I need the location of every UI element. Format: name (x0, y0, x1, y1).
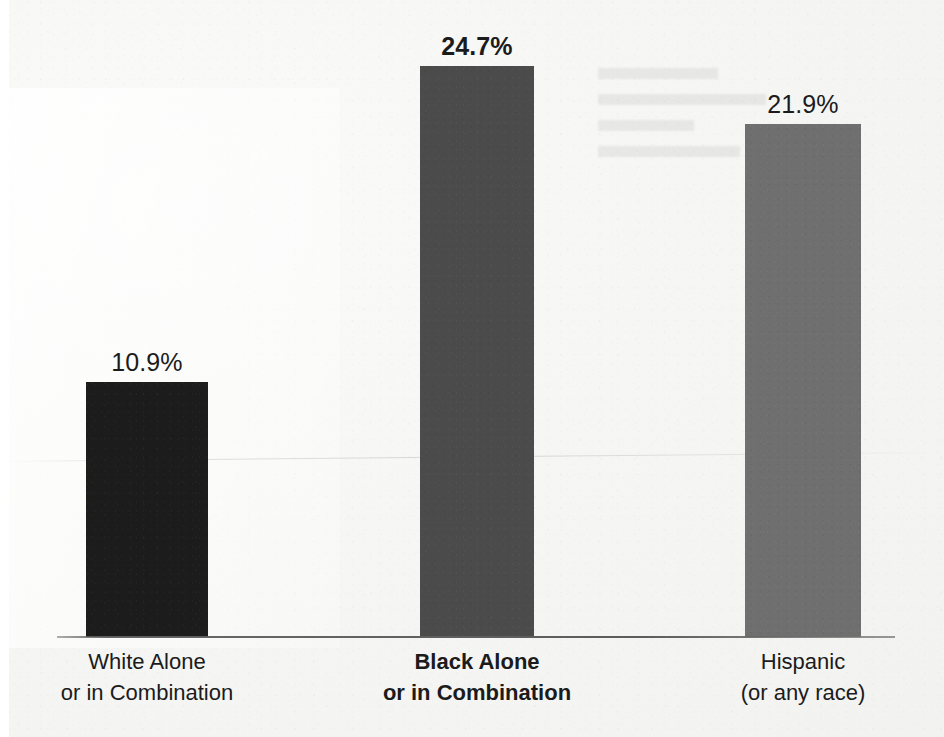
bar-chart-plot-area: 10.9% 24.7% 21.9% White Alone or in Comb… (0, 0, 944, 737)
bar-value-label-white: 10.9% (86, 348, 208, 377)
category-label-black-line2: or in Combination (357, 677, 597, 708)
bar-texture (420, 66, 534, 637)
bar-black-alone[interactable] (420, 66, 534, 637)
category-label-black: Black Alone or in Combination (357, 646, 597, 708)
category-label-black-line1: Black Alone (357, 646, 597, 677)
category-label-white-line2: or in Combination (27, 677, 267, 708)
category-label-white: White Alone or in Combination (27, 646, 267, 708)
category-label-hispanic-line2: (or any race) (688, 677, 918, 708)
bar-value-label-black: 24.7% (420, 32, 534, 61)
bar-hispanic[interactable] (745, 124, 861, 637)
bar-texture (745, 124, 861, 637)
category-label-hispanic-line1: Hispanic (688, 646, 918, 677)
category-label-hispanic: Hispanic (or any race) (688, 646, 918, 708)
bar-white-alone[interactable] (86, 382, 208, 637)
x-axis-baseline (57, 636, 895, 638)
bar-value-label-hispanic: 21.9% (745, 90, 861, 119)
bar-texture (86, 382, 208, 637)
category-label-white-line1: White Alone (27, 646, 267, 677)
chart-page: 10.9% 24.7% 21.9% White Alone or in Comb… (0, 0, 944, 737)
